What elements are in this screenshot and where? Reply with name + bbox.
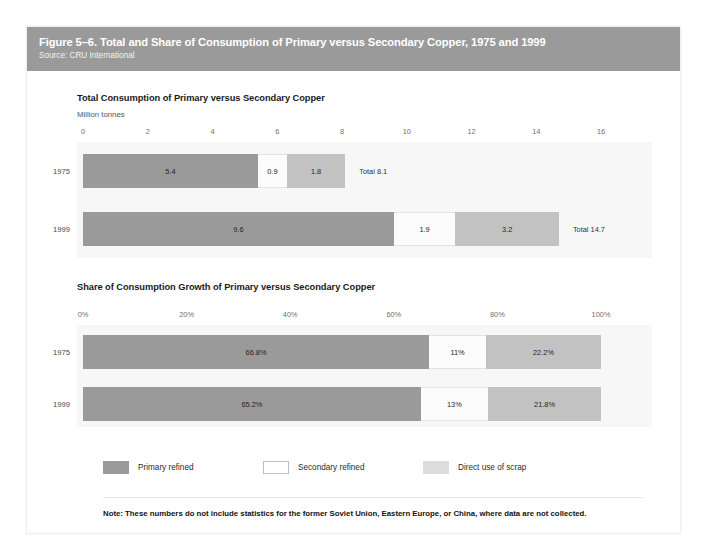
bar-segment: 66.8% — [83, 335, 429, 369]
bar-segment-value: 3.2 — [502, 225, 512, 234]
figure-note: Note: These numbers do not include stati… — [103, 508, 663, 519]
stacked-bar: 65.2%13%21.8% — [83, 387, 601, 421]
bar-segment: 22.2% — [486, 335, 601, 369]
axis-tick-label: 2 — [146, 127, 150, 136]
axis-tick-label: 4 — [210, 127, 214, 136]
legend-swatch-icon — [423, 461, 449, 474]
bar-row: 199965.2%13%21.8% — [27, 387, 681, 421]
legend-item[interactable]: Direct use of scrap — [423, 461, 526, 474]
legend-swatch-icon — [263, 461, 289, 474]
bar-segment: 9.6 — [83, 212, 394, 246]
stacked-bar: 9.61.93.2 — [83, 212, 601, 246]
bar-segment: 11% — [429, 335, 486, 369]
bar-segment-value: 1.8 — [311, 167, 321, 176]
figure-source: Source: CRU International — [39, 50, 668, 62]
figure-header: Figure 5–6. Total and Share of Consumpti… — [27, 27, 680, 71]
axis-tick-label: 40% — [283, 310, 298, 319]
x-axis-total: 0246810121416 — [27, 127, 681, 141]
bar-segment-value: 21.8% — [534, 400, 555, 409]
chart-panel-share-growth: Share of Consumption Growth of Primary v… — [27, 282, 681, 442]
plot-area-total: 19755.40.91.8Total 8.119999.61.93.2Total… — [77, 142, 652, 258]
legend-item[interactable]: Secondary refined — [263, 461, 364, 474]
bar-row: 19755.40.91.8Total 8.1 — [27, 154, 681, 188]
bar-row: 197566.8%11%22.2% — [27, 335, 681, 369]
bar-segment-value: 5.4 — [165, 167, 175, 176]
chart-panel-total-consumption: Total Consumption of Primary versus Seco… — [27, 93, 681, 273]
bar-segment-value: 0.9 — [267, 167, 277, 176]
legend-label: Secondary refined — [298, 463, 364, 472]
axis-tick-label: 80% — [490, 310, 505, 319]
axis-tick-label: 16 — [597, 127, 605, 136]
stacked-bar: 5.40.91.8 — [83, 154, 601, 188]
axis-tick-label: 0 — [81, 127, 85, 136]
panel-title-total: Total Consumption of Primary versus Seco… — [77, 93, 325, 103]
legend-item[interactable]: Primary refined — [103, 461, 194, 474]
plot-area-share: 197566.8%11%22.2%199965.2%13%21.8% — [77, 325, 652, 427]
axis-tick-label: 12 — [467, 127, 475, 136]
bar-total-label: Total 14.7 — [573, 225, 605, 234]
axis-tick-label: 0% — [78, 310, 89, 319]
bar-row-label: 1999 — [53, 225, 70, 234]
axis-tick-label: 10 — [403, 127, 411, 136]
legend-label: Direct use of scrap — [458, 463, 526, 472]
bar-row: 19999.61.93.2Total 14.7 — [27, 212, 681, 246]
bar-segment-value: 9.6 — [233, 225, 243, 234]
bar-segment: 3.2 — [455, 212, 559, 246]
legend-label: Primary refined — [138, 463, 194, 472]
axis-tick-label: 8 — [340, 127, 344, 136]
bar-segment: 1.8 — [287, 154, 345, 188]
bar-segment: 0.9 — [258, 154, 287, 188]
axis-tick-label: 6 — [275, 127, 279, 136]
bar-segment-value: 22.2% — [533, 348, 554, 357]
bar-segment-value: 1.9 — [419, 225, 429, 234]
bar-row-label: 1999 — [53, 400, 70, 409]
bar-segment: 5.4 — [83, 154, 258, 188]
bar-segment-value: 13% — [447, 400, 462, 409]
panel-title-share: Share of Consumption Growth of Primary v… — [77, 282, 375, 292]
axis-tick-label: 14 — [532, 127, 540, 136]
bar-segment: 65.2% — [83, 387, 421, 421]
axis-tick-label: 20% — [179, 310, 194, 319]
bar-segment: 21.8% — [488, 387, 601, 421]
bar-segment: 13% — [421, 387, 488, 421]
bar-total-label: Total 8.1 — [359, 167, 387, 176]
bar-segment-value: 66.8% — [246, 348, 267, 357]
figure-card: Figure 5–6. Total and Share of Consumpti… — [26, 26, 681, 534]
legend-swatch-icon — [103, 461, 129, 474]
figure-title: Figure 5–6. Total and Share of Consumpti… — [39, 35, 668, 49]
stacked-bar: 66.8%11%22.2% — [83, 335, 601, 369]
axis-tick-label: 60% — [386, 310, 401, 319]
x-axis-share: 0%20%40%60%80%100% — [27, 310, 681, 324]
note-divider — [103, 497, 643, 498]
panel-subtitle-total: Million tonnes — [77, 110, 125, 119]
axis-tick-label: 100% — [592, 310, 611, 319]
bar-segment-value: 11% — [450, 348, 464, 357]
bar-row-label: 1975 — [53, 167, 70, 176]
bar-segment-value: 65.2% — [241, 400, 262, 409]
bar-segment: 1.9 — [394, 212, 456, 246]
bar-row-label: 1975 — [53, 348, 70, 357]
